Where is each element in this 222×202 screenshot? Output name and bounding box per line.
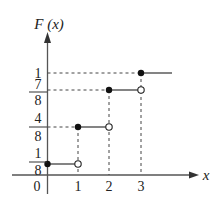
x-tick-2: 2 (106, 179, 113, 194)
y-tick-4-8-num: 4 (35, 111, 42, 126)
y-tick-7-8-den: 8 (35, 93, 42, 108)
step-segments (48, 73, 173, 164)
x-tick-3: 3 (138, 179, 145, 194)
closed-points (44, 70, 144, 167)
x-axis-label: x (202, 167, 210, 183)
y-tick-1-8-num: 1 (35, 146, 42, 161)
x-tick-1: 1 (75, 179, 82, 194)
y-tick-4-8-den: 8 (35, 129, 42, 144)
cdf-step-chart: F (x) x 0 1 2 3 1 7 8 4 8 1 8 (0, 0, 222, 202)
y-axis-arrow-icon (44, 32, 51, 43)
x-axis-arrow-icon (189, 172, 199, 179)
y-axis-label: F (x) (33, 16, 64, 33)
y-tick-7-8-num: 7 (35, 77, 42, 92)
x-tick-0: 0 (34, 179, 41, 194)
y-tick-1-8-den: 8 (35, 163, 42, 178)
guide-lines (48, 73, 142, 175)
